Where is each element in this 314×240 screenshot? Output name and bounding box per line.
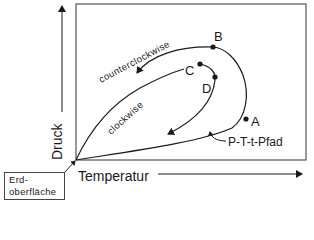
ptt-path-outer bbox=[76, 47, 246, 160]
clockwise-label: clockwise bbox=[105, 99, 145, 137]
point-d-label: D bbox=[202, 81, 211, 96]
earth-surface-box: Erd- oberfläche bbox=[4, 172, 65, 200]
point-d-dot bbox=[212, 74, 217, 79]
earth-surface-line1: Erd- bbox=[9, 174, 64, 186]
point-a-label: A bbox=[251, 114, 260, 129]
x-axis-label: Temperatur bbox=[78, 168, 149, 184]
y-axis-label: Druck bbox=[49, 122, 65, 160]
origin-leader bbox=[64, 161, 75, 173]
point-a-dot bbox=[243, 116, 248, 121]
earth-surface-line2: oberfläche bbox=[9, 186, 64, 198]
point-b-label: B bbox=[214, 29, 223, 44]
point-c-label: C bbox=[185, 63, 194, 78]
point-c-dot bbox=[197, 61, 202, 66]
ptt-label: P-T-t-Pfad bbox=[228, 135, 283, 149]
point-b-dot bbox=[210, 44, 215, 49]
